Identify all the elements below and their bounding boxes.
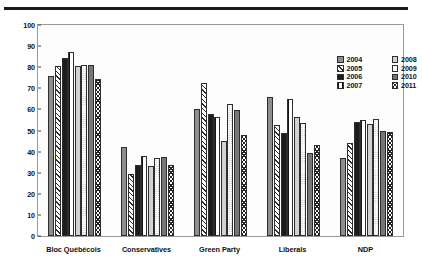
bar-conservatives-2006 [135,165,141,236]
bar-bloc-qu-b-cois-2009 [81,65,87,236]
legend-label: 2009 [401,65,417,72]
bar-ndp-2006 [354,122,360,236]
bar-conservatives-2009 [154,158,160,236]
bar-bloc-qu-b-cois-2011 [95,79,101,236]
bar-ndp-2007 [360,120,366,236]
bar-liberals-2009 [300,123,306,236]
y-tick-label: 100 [23,21,35,30]
y-tick-label: 70 [27,84,35,93]
bar-ndp-2011 [387,132,393,236]
bar-bloc-qu-b-cois-2008 [75,66,81,236]
bar-bloc-qu-b-cois-2005 [55,66,61,236]
legend-item-2008[interactable]: 2008 [392,56,422,63]
legend-item-2010[interactable]: 2010 [392,73,422,80]
swatch-2010-icon [392,74,399,81]
bar-liberals-2004 [267,97,273,236]
bar-conservatives-2004 [121,147,127,236]
legend-label: 2006 [347,73,363,80]
y-tick-label: 50 [27,126,35,135]
legend-label: 2005 [347,65,363,72]
swatch-2004-icon [337,56,344,63]
plot-area: Percent of revenue 010203040506070809010… [37,24,404,237]
y-tick-label: 40 [27,147,35,156]
bar-ndp-2008 [367,124,373,236]
swatch-2011-icon [392,82,399,89]
y-tick-label: 30 [27,168,35,177]
swatch-2008-icon [392,56,399,63]
bar-ndp-2010 [380,131,386,237]
swatch-2009-icon [392,65,399,72]
legend-label: 2008 [401,56,417,63]
bar-green-party-2010 [234,110,240,236]
legend-label: 2010 [401,73,417,80]
bar-liberals-2005 [274,125,280,236]
bar-bloc-qu-b-cois-2007 [68,52,74,236]
bar-bloc-qu-b-cois-2010 [88,65,94,236]
bar-conservatives-2010 [161,157,167,236]
bar-green-party-2005 [201,83,207,236]
bar-bloc-qu-b-cois-2004 [48,76,54,236]
bar-green-party-2004 [194,109,200,236]
y-tick-label: 60 [27,105,35,114]
chart-legend: 20042008200520092006201020072011 [337,56,422,89]
y-tick-label: 0 [31,232,35,241]
bar-green-party-2006 [208,114,214,236]
bar-liberals-2011 [314,145,320,236]
legend-label: 2004 [347,56,363,63]
bar-green-party-2007 [214,117,220,236]
bar-ndp-2004 [340,158,346,236]
legend-item-2011[interactable]: 2011 [392,82,422,89]
bar-bloc-qu-b-cois-2006 [62,58,68,236]
bar-green-party-2011 [241,135,247,236]
legend-item-2004[interactable]: 2004 [337,56,383,63]
swatch-2005-icon [337,65,344,72]
y-tick-label: 80 [27,63,35,72]
bar-conservatives-2008 [148,166,154,236]
y-tick-label: 90 [27,42,35,51]
bar-green-party-2009 [227,104,233,236]
bar-conservatives-2007 [141,156,147,236]
legend-item-2009[interactable]: 2009 [392,65,422,72]
bar-liberals-2006 [281,133,287,236]
legend-label: 2007 [347,82,363,89]
legend-item-2005[interactable]: 2005 [337,65,383,72]
y-tick-label: 10 [27,210,35,219]
y-tick-label: 20 [27,189,35,198]
bar-green-party-2008 [221,141,227,236]
bar-liberals-2007 [287,99,293,236]
header-rule [4,7,408,10]
legend-label: 2011 [401,82,416,89]
swatch-2006-icon [337,74,344,81]
x-tick-label: NDP [316,245,416,254]
bar-liberals-2008 [294,117,300,236]
bar-liberals-2010 [307,153,313,236]
bar-ndp-2005 [347,143,353,236]
legend-item-2007[interactable]: 2007 [337,82,383,89]
legend-item-2006[interactable]: 2006 [337,73,383,80]
bar-conservatives-2005 [128,174,134,236]
bar-ndp-2009 [373,119,379,236]
swatch-2007-icon [337,82,344,89]
bar-conservatives-2011 [168,165,174,236]
